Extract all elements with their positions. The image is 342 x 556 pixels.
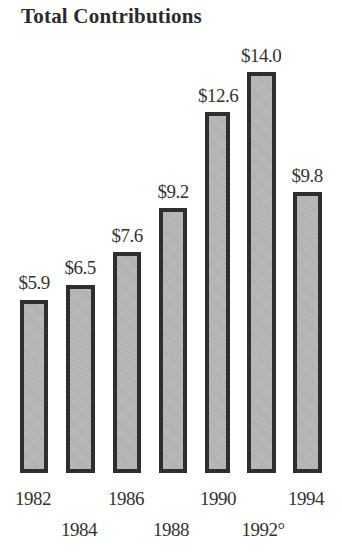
bar-1986 [113, 252, 141, 473]
bar-1984 [66, 285, 95, 473]
value-label-1984: $6.5 [50, 257, 110, 279]
x-label-1986: 1986 [91, 488, 161, 510]
bar-1990 [205, 112, 230, 473]
x-label-1990: 1990 [183, 488, 253, 510]
value-label-1986: $7.6 [97, 225, 157, 247]
bar-1992 [247, 72, 276, 473]
bar-1988 [159, 208, 187, 473]
value-label-1994: $9.8 [277, 165, 337, 187]
x-label-1994: 1994 [271, 488, 341, 510]
bar-1994 [293, 192, 322, 473]
value-label-1992: $14.0 [231, 45, 291, 67]
chart-title: Total Contributions [21, 4, 202, 29]
value-label-1988: $9.2 [143, 181, 203, 203]
x-label-1984: 1984 [44, 519, 114, 541]
x-label-1982: 1982 [0, 488, 68, 510]
x-label-1992: 1992° [228, 519, 298, 541]
bar-1982 [20, 300, 48, 473]
x-label-1988: 1988 [136, 519, 206, 541]
value-label-1990: $12.6 [188, 85, 248, 107]
